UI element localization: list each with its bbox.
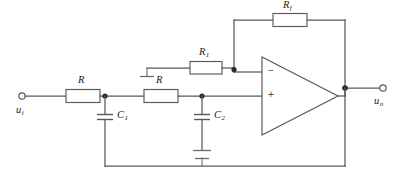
- capacitor-c2-label: C2: [214, 110, 225, 121]
- output-terminal-circle: [380, 85, 386, 91]
- resistor-r-first-body: [66, 90, 100, 103]
- resistor-r1-body: [190, 62, 222, 75]
- input-terminal-circle: [19, 93, 25, 99]
- capacitor-c1: [97, 96, 113, 166]
- circuit-diagram: ui R R C1 C2 R1 Rf uo − +: [0, 0, 406, 192]
- opamp-noninverting-sign: +: [268, 90, 274, 100]
- input-terminal-label: ui: [16, 105, 23, 116]
- resistor-r-second-label: R: [156, 75, 163, 86]
- output-terminal-label: uo: [374, 96, 383, 107]
- resistor-rf-body: [273, 14, 307, 27]
- resistor-r-second-body: [144, 90, 178, 103]
- resistor-r1-label: R1: [199, 47, 209, 58]
- opamp-inverting-sign: −: [268, 66, 274, 76]
- junction-dot-inverting: [231, 67, 236, 72]
- resistor-r-first-label: R: [78, 75, 85, 86]
- opamp-symbol: [262, 57, 386, 135]
- circuit-schematic-canvas: [0, 0, 406, 192]
- capacitor-c2: [193, 96, 211, 151]
- capacitor-c1-label: C1: [117, 110, 128, 121]
- resistor-rf-label: Rf: [283, 0, 292, 11]
- signal-input-path: [19, 90, 262, 103]
